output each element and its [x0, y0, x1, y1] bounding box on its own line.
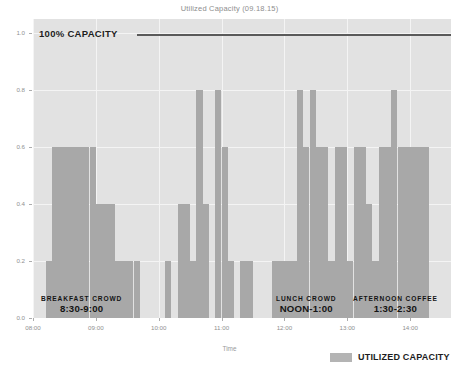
- x-tick-mark: [33, 318, 34, 321]
- y-tick-label: 1.0: [3, 29, 25, 36]
- bar: [190, 261, 196, 318]
- bar: [52, 147, 58, 318]
- bar: [423, 147, 429, 318]
- bar: [322, 147, 328, 318]
- annotation-title: AFTERNOON COFFEE: [353, 294, 438, 303]
- gridline-vertical: [159, 19, 160, 318]
- utilized-capacity-chart: Utilized Capacity (09.18.15) 100% CAPACI…: [0, 0, 459, 373]
- bar: [127, 261, 133, 318]
- bar: [184, 204, 190, 318]
- y-tick-label: 0.8: [3, 86, 25, 93]
- x-tick-label: 14:00: [390, 324, 430, 331]
- x-tick-label: 13:00: [327, 324, 367, 331]
- annotation-range: 8:30-9:00: [41, 303, 122, 314]
- bar: [416, 147, 422, 318]
- bar: [240, 261, 246, 318]
- x-axis-title: Time: [0, 345, 459, 352]
- chart-annotation: BREAKFAST CROWD8:30-9:00: [41, 294, 122, 314]
- bar: [215, 90, 221, 318]
- bar: [203, 204, 209, 318]
- y-tick-mark: [29, 33, 32, 34]
- chart-title: Utilized Capacity (09.18.15): [0, 4, 459, 13]
- bar: [391, 90, 397, 318]
- legend-swatch-utilized-capacity: [330, 353, 352, 362]
- y-tick-label: 0.2: [3, 257, 25, 264]
- x-tick-mark: [347, 318, 348, 321]
- x-tick-label: 11:00: [202, 324, 242, 331]
- bar: [134, 261, 140, 318]
- y-tick-label: 0.4: [3, 200, 25, 207]
- x-tick-label: 09:00: [76, 324, 116, 331]
- bar: [247, 261, 253, 318]
- capacity-reference-line: [137, 34, 451, 36]
- chart-annotation: AFTERNOON COFFEE1:30-2:30: [353, 294, 438, 314]
- bar: [303, 147, 309, 318]
- bar: [341, 147, 347, 318]
- y-tick-mark: [29, 147, 32, 148]
- annotation-range: 1:30-2:30: [353, 303, 438, 314]
- bar: [222, 147, 228, 318]
- x-tick-mark: [410, 318, 411, 321]
- bar: [83, 147, 89, 318]
- bar: [64, 147, 70, 318]
- x-tick-mark: [159, 318, 160, 321]
- bar: [196, 90, 202, 318]
- bar: [71, 147, 77, 318]
- bar: [90, 147, 96, 318]
- annotation-range: NOON-1:00: [276, 303, 336, 314]
- y-tick-mark: [29, 204, 32, 205]
- plot-area: 100% CAPACITYBREAKFAST CROWD8:30-9:00LUN…: [33, 19, 451, 318]
- annotation-title: LUNCH CROWD: [276, 294, 336, 303]
- bar: [335, 147, 341, 318]
- y-tick-mark: [29, 318, 32, 319]
- bar: [398, 147, 404, 318]
- x-tick-label: 12:00: [264, 324, 304, 331]
- bar: [385, 147, 391, 318]
- gridline-vertical: [33, 19, 34, 318]
- bar: [410, 147, 416, 318]
- bar: [58, 147, 64, 318]
- chart-legend: UTILIZED CAPACITY: [330, 352, 450, 362]
- bar: [228, 261, 234, 318]
- x-tick-label: 10:00: [139, 324, 179, 331]
- bar: [316, 147, 322, 318]
- x-tick-label: 08:00: [13, 324, 53, 331]
- bar: [178, 204, 184, 318]
- y-tick-mark: [29, 261, 32, 262]
- y-tick-mark: [29, 90, 32, 91]
- y-tick-label: 0.6: [3, 143, 25, 150]
- bar: [404, 147, 410, 318]
- x-tick-mark: [284, 318, 285, 321]
- x-tick-mark: [222, 318, 223, 321]
- x-tick-mark: [96, 318, 97, 321]
- capacity-reference-label: 100% CAPACITY: [39, 28, 118, 39]
- chart-annotation: LUNCH CROWDNOON-1:00: [276, 294, 336, 314]
- bar: [297, 90, 303, 318]
- bar: [310, 90, 316, 318]
- y-tick-label: 0.0: [3, 314, 25, 321]
- bar: [165, 261, 171, 318]
- annotation-title: BREAKFAST CROWD: [41, 294, 122, 303]
- bar: [360, 147, 366, 318]
- bar: [77, 147, 83, 318]
- bar: [379, 147, 385, 318]
- legend-label-utilized-capacity: UTILIZED CAPACITY: [358, 352, 450, 362]
- bar: [354, 147, 360, 318]
